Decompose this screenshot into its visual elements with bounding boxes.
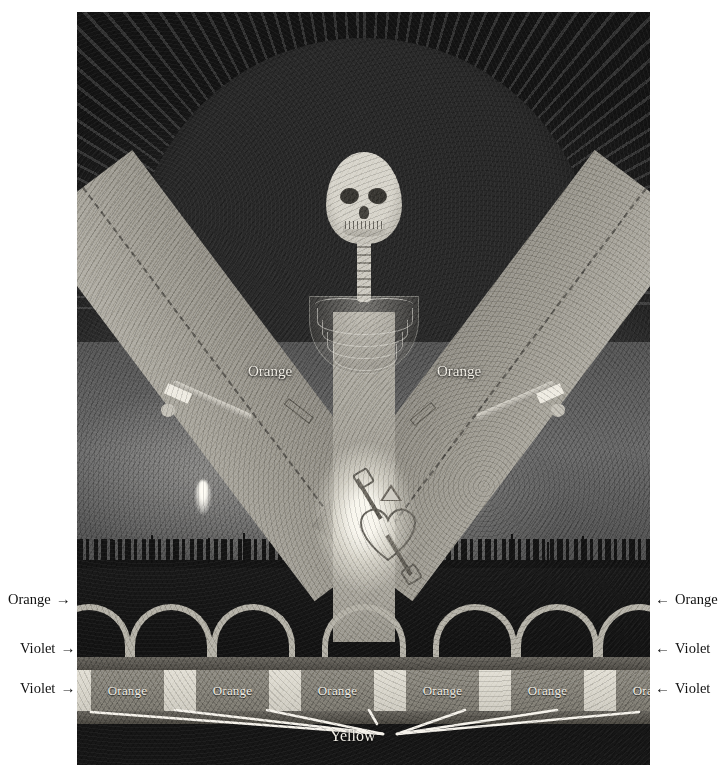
yellow-strip [584,670,616,711]
orange-segment: Orange [301,670,374,711]
annotation-label: Orange [8,591,51,608]
arrow-right-icon: → [56,592,71,607]
yellow-strip [269,670,301,711]
nasal-cavity [359,206,369,219]
orange-segment-label: Orange [213,683,252,699]
yellow-strip [164,670,196,711]
arcade-of-arches [77,602,650,660]
hand-right [551,404,565,417]
annotation-label: Violet [20,680,55,697]
orange-segment: Orange [406,670,479,711]
annotation-label: Violet [20,640,55,657]
orange-segment-label: Orange [528,683,567,699]
eye-socket-left [339,187,360,205]
annotation-left-violet-upper: Violet → [20,640,75,657]
annotation-left-orange: Orange → [8,591,71,608]
violet-band-upper [77,657,650,670]
illustration-stage: Orange Orange OrangeOrangeOrangeOrangeOr… [0,0,728,779]
arrow-left-icon: ← [655,592,670,607]
annotation-label: Violet [675,680,710,697]
yellow-strip [77,670,91,711]
arch [129,604,213,660]
orange-segment: Orange [196,670,269,711]
band-label-orange-right: Orange [437,363,481,380]
arch [515,604,599,660]
orange-segment: Orange [91,670,164,711]
teeth [345,221,383,229]
arrow-left-icon: ← [655,641,670,656]
annotation-right-orange: ← Orange [655,591,718,608]
orange-segment: Orange [616,670,650,711]
annotation-label: Orange [675,591,718,608]
hand-left [161,404,175,417]
arch [211,604,295,660]
annotation-right-violet-lower: ← Violet [655,680,710,697]
orange-segment-label: Orange [318,683,357,699]
artwork-plate: Orange Orange OrangeOrangeOrangeOrangeOr… [77,12,650,765]
orange-segment-label: Orange [423,683,462,699]
orange-segment-label: Orange [108,683,147,699]
eye-socket-right [367,187,388,205]
arrow-left-icon: ← [655,681,670,696]
spine [357,240,371,302]
arch-center [322,604,406,660]
annotation-label: Violet [675,640,710,657]
heart-emblem-group [345,482,431,578]
orange-segment-label: Orange [633,683,650,699]
yellow-strip [479,670,511,711]
annotation-left-violet-lower: Violet → [20,680,75,697]
violet-band-lower [77,711,650,724]
arch [597,604,650,660]
yellow-strip [374,670,406,711]
rib [333,344,397,371]
band-label-orange-left: Orange [248,363,292,380]
striped-base-band: OrangeOrangeOrangeOrangeOrangeOrange [77,670,650,711]
arrow-right-icon: → [60,641,75,656]
arch [77,604,131,660]
arch [433,604,517,660]
arrow-right-icon: → [60,681,75,696]
orange-segment: Orange [511,670,584,711]
annotation-right-violet-upper: ← Violet [655,640,710,657]
yellow-callout-label: Yellow [330,727,376,745]
